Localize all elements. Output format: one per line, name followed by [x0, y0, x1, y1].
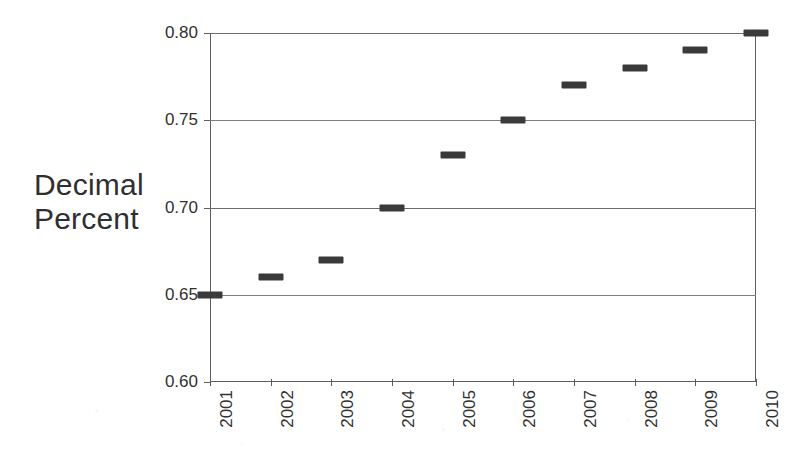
x-axis-line — [210, 381, 756, 382]
data-point-marker — [683, 47, 708, 54]
y-axis-tick-mark — [204, 208, 210, 209]
data-point-marker — [258, 274, 283, 281]
x-axis-tick-label: 2005 — [460, 390, 480, 428]
data-point-marker — [562, 82, 587, 89]
y-axis-tick-mark — [204, 120, 210, 121]
gridline — [210, 295, 756, 296]
y-axis-tick-label: 0.60 — [165, 372, 198, 392]
data-point-marker — [501, 117, 526, 124]
x-axis-tick-label: 2006 — [520, 390, 540, 428]
x-axis-tick-label: 2003 — [338, 390, 358, 428]
x-axis-tick-labels: 2001200220032004200520062007200820092010 — [210, 386, 756, 461]
x-axis-tick-mark — [756, 379, 757, 386]
y-axis-tick-mark — [204, 33, 210, 34]
gridline — [210, 208, 756, 209]
y-axis-tick-label: 0.80 — [165, 23, 198, 43]
x-axis-tick-mark — [695, 379, 696, 386]
y-axis-tick-label: 0.75 — [165, 110, 198, 130]
y-axis-tick-label: 0.65 — [165, 285, 198, 305]
x-axis-tick-label: 2001 — [217, 390, 237, 428]
x-axis-tick-mark — [453, 379, 454, 386]
x-axis-tick-mark — [210, 379, 211, 386]
data-point-marker — [198, 291, 223, 298]
data-point-marker — [380, 204, 405, 211]
x-axis-tick-mark — [271, 379, 272, 386]
x-axis-tick-mark — [574, 379, 575, 386]
x-axis-tick-mark — [392, 379, 393, 386]
y-axis-tick-labels: 0.600.650.700.750.80 — [118, 33, 202, 382]
x-axis-tick-mark — [513, 379, 514, 386]
x-axis-tick-label: 2010 — [763, 390, 783, 428]
chart-figure: Decimal Percent 0.600.650.700.750.80 200… — [0, 0, 806, 467]
x-axis-tick-label: 2004 — [399, 390, 419, 428]
x-axis-tick-label: 2008 — [642, 390, 662, 428]
x-axis-tick-label: 2007 — [581, 390, 601, 428]
data-point-marker — [622, 64, 647, 71]
x-axis-tick-mark — [331, 379, 332, 386]
x-axis-tick-label: 2009 — [702, 390, 722, 428]
plot-area — [210, 33, 756, 382]
gridline — [210, 33, 756, 34]
x-axis-tick-label: 2002 — [278, 390, 298, 428]
x-axis-tick-mark — [635, 379, 636, 386]
y-axis-tick-label: 0.70 — [165, 198, 198, 218]
data-point-marker — [319, 256, 344, 263]
data-point-marker — [440, 152, 465, 159]
gridline — [210, 120, 756, 121]
data-point-marker — [744, 30, 769, 37]
